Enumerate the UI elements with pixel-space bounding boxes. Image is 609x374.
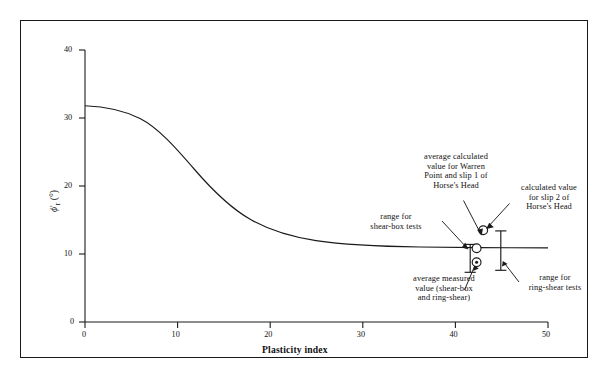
arrowhead-calculated-slip2 (486, 223, 494, 229)
y-axis-title-sub: r (53, 203, 62, 206)
y-axis-title-prime: ' (48, 205, 59, 207)
data-point-average-measured (472, 258, 481, 267)
y-tick-label-40: 40 (64, 45, 72, 54)
x-tick-label-0: 0 (82, 330, 86, 339)
y-axis-title-unit: (°) (48, 190, 59, 200)
y-tick-label-0: 0 (70, 317, 74, 326)
x-tick-label-40: 40 (449, 330, 457, 339)
data-point-calculated-slip2 (472, 244, 481, 253)
x-tick-label-30: 30 (357, 330, 365, 339)
annotation-range-ring-shear: range for ring-shear tests (516, 273, 594, 292)
x-axis-title: Plasticity index (262, 344, 328, 355)
leader-average-calculated (464, 201, 482, 235)
x-tick-label-20: 20 (264, 330, 272, 339)
figure-container: 40 30 20 10 0 0 10 20 30 40 50 Plasticit… (0, 0, 609, 374)
leader-range-shear-box (442, 221, 468, 249)
x-tick-label-50: 50 (542, 330, 550, 339)
annotation-calculated-slip2: calculated value for slip 2 of Horse's H… (506, 183, 592, 212)
y-tick-label-10: 10 (64, 249, 72, 258)
annotation-average-measured: average measured value (shear-box and ri… (396, 274, 492, 303)
y-tick-label-20: 20 (64, 181, 72, 190)
annotation-range-shear-box: range for shear-box tests (354, 212, 438, 231)
x-tick-label-10: 10 (172, 330, 180, 339)
annotation-average-calculated: average calculated value for Warren Poin… (404, 152, 508, 190)
y-axis-title-symbol: ϕ (48, 207, 59, 212)
y-axis-title: ϕ'r (°) (48, 190, 62, 212)
y-tick-label-30: 30 (64, 113, 72, 122)
